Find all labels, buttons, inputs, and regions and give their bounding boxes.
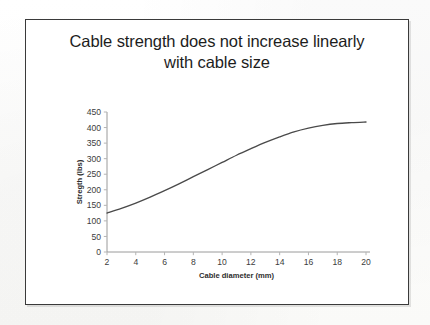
x-axis-tick-label: 16: [304, 257, 314, 267]
chart-plot-area: 050100150200250300350400450 246810121416…: [0, 0, 430, 325]
x-axis-tick-label: 2: [105, 257, 110, 267]
x-axis-tick-label: 18: [332, 257, 342, 267]
slide-canvas: Cable strength does not increase linearl…: [0, 0, 430, 325]
y-axis: 050100150200250300350400450: [87, 107, 107, 257]
y-axis-tick-label: 250: [87, 169, 102, 179]
strength-curve: [107, 122, 366, 213]
x-axis-tick-label: 4: [133, 257, 138, 267]
y-axis-tick-label: 400: [87, 123, 102, 133]
y-axis-tick-label: 100: [87, 216, 102, 226]
y-axis-title: Stregth (lbs): [75, 159, 84, 204]
x-axis-title: Cable diameter (mm): [199, 271, 275, 280]
line-chart-svg: 050100150200250300350400450 246810121416…: [0, 0, 430, 325]
y-axis-tick-label: 150: [87, 200, 102, 210]
y-axis-tick-label: 450: [87, 107, 102, 117]
y-axis-tick-label: 0: [96, 247, 101, 257]
y-axis-tick-label: 50: [91, 232, 101, 242]
y-axis-tick-label: 300: [87, 154, 102, 164]
data-series-cable-strength: [107, 122, 366, 213]
x-axis-tick-label: 8: [191, 257, 196, 267]
x-axis-tick-label: 20: [361, 257, 371, 267]
x-axis-tick-label: 14: [275, 257, 285, 267]
x-axis-tick-label: 6: [162, 257, 167, 267]
y-axis-tick-label: 200: [87, 185, 102, 195]
x-axis: 2468101214161820: [105, 252, 371, 267]
y-axis-tick-label: 350: [87, 138, 102, 148]
x-axis-tick-label: 10: [217, 257, 227, 267]
x-axis-tick-label: 12: [246, 257, 256, 267]
